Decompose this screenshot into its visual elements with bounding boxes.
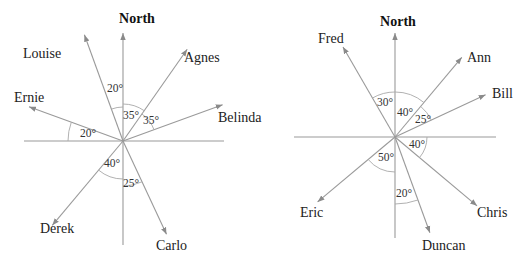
label-ernie: Ernie [14,90,44,105]
angle-label: 40° [104,157,121,169]
ray-agnes-arrow [123,49,187,141]
ray-eric-arrow [318,137,395,202]
label-derek: Derek [40,221,74,236]
label-fred: Fred [318,31,344,46]
angle-arc [99,170,123,179]
angle-label: 30° [377,96,394,108]
angle-label: 20° [107,82,124,94]
compass-diagrams: NorthLouiseAgnesBelindaErnieDerekCarlo20… [0,0,524,263]
north-label: North [119,11,155,26]
label-carlo: Carlo [156,238,187,253]
ray-ernie-arrow [29,107,123,141]
angle-arc [395,200,418,204]
angle-label: 35° [143,114,160,126]
angle-arc [111,107,123,109]
angle-arc [395,92,424,103]
angle-label: 25° [123,177,140,189]
label-chris: Chris [477,205,507,220]
label-bill: Bill [492,86,513,101]
angle-label: 35° [123,109,140,121]
label-agnes: Agnes [184,50,220,65]
ray-fred-arrow [343,47,395,137]
angle-arc [68,122,71,141]
angle-label: 20° [80,127,97,139]
label-eric: Eric [300,205,323,220]
left-compass: NorthLouiseAgnesBelindaErnieDerekCarlo20… [14,11,262,253]
label-ann: Ann [467,50,491,65]
label-louise: Louise [23,46,61,61]
north-label: North [380,14,416,29]
label-belinda: Belinda [218,110,262,125]
angle-label: 25° [415,113,432,125]
angle-label: 50° [378,151,395,163]
label-duncan: Duncan [422,238,466,253]
angle-label: 40° [409,138,426,150]
ray-ann-arrow [395,57,462,137]
right-compass: NorthFredAnnBillChrisDuncanEric30°40°25°… [294,14,513,253]
angle-label: 20° [396,187,413,199]
angle-label: 40° [397,106,414,118]
ray-derek-arrow [52,141,123,225]
